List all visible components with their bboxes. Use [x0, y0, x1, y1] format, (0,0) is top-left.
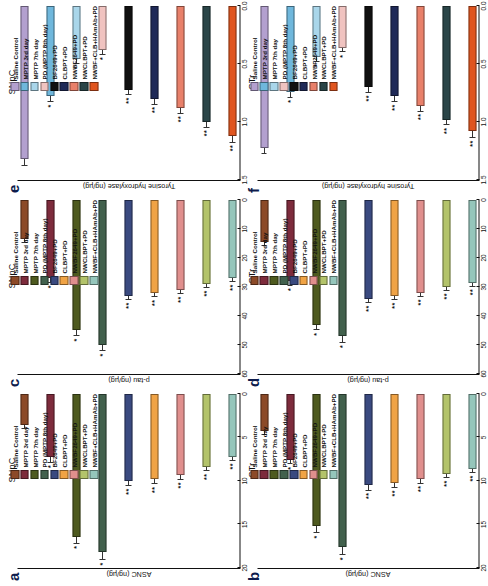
bar	[150, 394, 158, 479]
tick-label: 1.5	[479, 176, 486, 185]
significance-marker: **	[468, 140, 475, 146]
legend-swatch	[289, 276, 298, 285]
bar-row: **	[150, 394, 158, 568]
error-bar	[338, 48, 346, 53]
tick-label: 1.0	[479, 118, 486, 127]
bar-row: **	[228, 200, 236, 374]
bar-row: **	[150, 6, 158, 180]
legend-label: PD (MPTP 8th day)	[280, 219, 287, 274]
bar-row: *	[98, 6, 106, 180]
legend-item: MPTP 7th day	[269, 6, 278, 91]
legend-item: NWCLBPT+PD	[79, 6, 88, 91]
bar-row: **	[468, 200, 476, 374]
legend-item: MPTP 7th day	[30, 200, 39, 285]
bar	[468, 200, 476, 283]
legend-swatch	[30, 276, 39, 285]
tick-label: 40	[479, 312, 486, 319]
bar	[390, 200, 398, 296]
bar-row: **	[468, 394, 476, 568]
legend-item: MPTP 7th day	[269, 200, 278, 285]
legend-swatch	[40, 276, 49, 285]
legend-swatch	[20, 276, 29, 285]
bar	[338, 6, 346, 48]
panel-d-letter: d	[244, 378, 261, 387]
legend-label: NWBF2649+PD	[310, 35, 317, 80]
bar	[416, 6, 424, 106]
legend-swatch	[79, 470, 88, 479]
legend-item: NWBF+CLB+HAmAb+PD	[89, 6, 98, 91]
legend-item: NWCLBPT+PD	[79, 394, 88, 479]
significance-marker: *	[46, 104, 53, 107]
legend-label: CLBPT+PD	[60, 47, 67, 80]
bar-row: **	[364, 6, 372, 180]
bar-row: **	[228, 394, 236, 568]
significance-marker: **	[468, 289, 475, 295]
significance-marker: **	[125, 97, 132, 103]
bar-row: **	[176, 200, 184, 374]
legend-swatch	[69, 470, 78, 479]
tick-label: 0	[479, 392, 486, 396]
error-bar	[124, 90, 132, 96]
significance-marker: **	[364, 95, 371, 101]
legend-swatch	[20, 82, 29, 91]
panel-f-tick-strip: 0.00.51.01.5	[479, 6, 488, 180]
significance-marker: *	[286, 288, 293, 291]
legend-item: Saline Control	[250, 6, 259, 91]
significance-marker: **	[416, 486, 423, 492]
significance-marker: **	[151, 107, 158, 113]
panel-d-yaxis-label: p-tau (ng/µg)	[257, 375, 480, 386]
bar-row: **	[442, 200, 450, 374]
legend-swatch	[30, 82, 39, 91]
legend-item: NWBF+CLB+HAmAb+PD	[329, 200, 338, 285]
legend-label: NWBF2649+PD	[70, 35, 77, 80]
bar-row: **	[202, 200, 210, 374]
legend-label: NWCLBPT+PD	[319, 424, 326, 467]
bar-row: **	[364, 200, 372, 374]
legend-label: MPTP 3rd day	[21, 39, 28, 80]
significance-marker: *	[312, 333, 319, 336]
significance-marker: **	[364, 493, 371, 499]
legend-swatch	[309, 82, 318, 91]
legend-item: NWCLBPT+PD	[319, 394, 328, 479]
legend-label: BF2649+PD	[290, 45, 297, 79]
legend-label: BF2649+PD	[50, 45, 57, 79]
legend-swatch	[279, 82, 288, 91]
panel-e: e SNpC Tyrosine hydroxylase (ng/µg) ****…	[4, 2, 244, 196]
legend-item: NWBF+CLB+HAmAb+PD	[329, 394, 338, 479]
bar-row: **	[202, 394, 210, 568]
legend-swatch	[279, 276, 288, 285]
error-bar	[364, 87, 372, 93]
panel-e-letter: e	[4, 185, 21, 193]
legend-item: Saline Control	[10, 200, 19, 285]
bar	[124, 200, 132, 296]
legend-item: CLBPT+PD	[59, 6, 68, 91]
panel-a: a SNpC ASNC (ng/µg) *************0510152…	[4, 390, 244, 584]
bar-row: **	[390, 200, 398, 374]
legend-swatch	[259, 276, 268, 285]
legend-label: MPTP 3rd day	[260, 233, 267, 274]
legend-label: MPTP 7th day	[31, 233, 38, 273]
error-bar	[468, 131, 476, 138]
tick-label: 20	[479, 564, 486, 571]
bar-row: **	[176, 6, 184, 180]
significance-marker: **	[151, 486, 158, 492]
legend-label: Saline Control	[250, 37, 257, 79]
panel-c-axis	[17, 374, 240, 375]
panel-c: c SNpC p-tau (ng/µg) *************010203…	[4, 196, 244, 390]
legend-swatch	[250, 276, 259, 285]
legend-item: NWCLBPT+PD	[319, 200, 328, 285]
bar	[150, 6, 158, 99]
legend-label: Saline Control	[11, 231, 18, 273]
legend-item: NWBF2649+PD	[309, 6, 318, 91]
legend-label: BF2649+PD	[50, 239, 57, 273]
bar-row: **	[416, 394, 424, 568]
legend-swatch	[289, 82, 298, 91]
bar-row: *	[338, 200, 346, 374]
legend-item: NWBF2649+PD	[69, 394, 78, 479]
panel-d-legend: Saline ControlMPTP 3rd dayMPTP 7th dayPD…	[250, 200, 338, 285]
significance-marker: *	[338, 54, 345, 57]
bar-row: **	[124, 200, 132, 374]
legend-swatch	[59, 470, 68, 479]
legend-item: NWBF+CLB+HAmAb+PD	[89, 200, 98, 285]
significance-marker: **	[416, 114, 423, 120]
